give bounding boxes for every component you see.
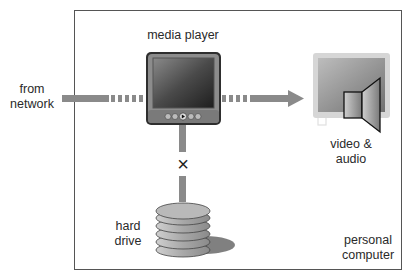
output-label: video & audio [321, 137, 381, 167]
source-label: from network [2, 82, 62, 112]
output-arrow [222, 90, 304, 107]
storage-label-line2: drive [108, 234, 148, 249]
container-label-line2: computer [333, 248, 403, 263]
hard-drive-icon [156, 203, 235, 257]
container-label: personal computer [333, 233, 403, 263]
storage-label-line1: hard [108, 219, 148, 234]
media-player-label: media player [128, 28, 238, 43]
network-connector [62, 95, 143, 102]
storage-label: hard drive [108, 219, 148, 249]
output-label-line1: video & [321, 137, 381, 152]
output-label-line2: audio [321, 152, 381, 167]
container-label-line1: personal [333, 233, 403, 248]
source-label-line1: from [2, 82, 62, 97]
source-label-line2: network [2, 97, 62, 112]
blocked-marker: × [173, 153, 193, 175]
display-speaker-icon [313, 53, 390, 132]
media-player-icon [146, 52, 221, 125]
